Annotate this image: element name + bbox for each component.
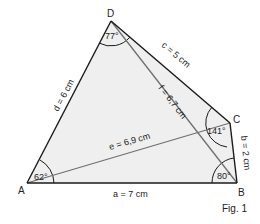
side-label-b: b = 2 cm xyxy=(239,135,253,171)
vertex-label-b: B xyxy=(238,187,245,198)
vertex-label-d: D xyxy=(107,8,114,19)
side-label-a: a = 7 cm xyxy=(113,189,148,199)
angle-label-a: 62° xyxy=(34,172,48,182)
angle-label-c: 141° xyxy=(207,126,226,136)
angle-label-d: 77° xyxy=(105,31,119,41)
figure-caption: Fig. 1 xyxy=(222,203,247,214)
angle-label-b: 80° xyxy=(217,171,231,181)
vertex-label-c: C xyxy=(233,114,240,125)
quadrilateral-diagram: A B C D 62° 80° 141° 77° a = 7 cm b = 2 … xyxy=(0,0,260,224)
side-label-c: c = 5 cm xyxy=(160,40,193,70)
vertex-label-a: A xyxy=(18,185,25,196)
